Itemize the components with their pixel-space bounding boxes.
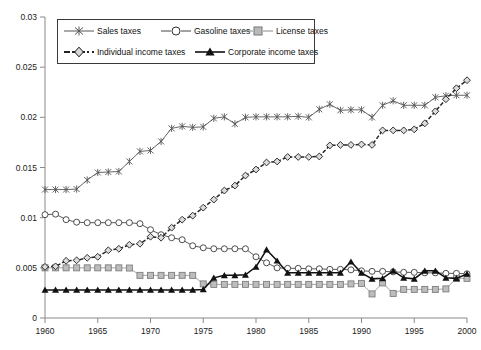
data-point xyxy=(232,120,238,127)
data-point xyxy=(337,281,343,287)
data-point xyxy=(200,245,206,251)
data-point xyxy=(148,227,154,233)
data-point xyxy=(327,281,333,287)
x-axis-label: 1965 xyxy=(78,326,118,336)
data-point xyxy=(432,286,438,292)
legend-item-corporate-income-taxes[interactable]: Corporate income taxes xyxy=(195,43,318,61)
data-point xyxy=(400,127,407,134)
data-point xyxy=(126,220,132,226)
data-point xyxy=(211,281,217,287)
data-point xyxy=(253,254,259,260)
data-point xyxy=(73,257,80,264)
data-point xyxy=(253,263,260,269)
data-point xyxy=(126,241,133,248)
legend-row-2: Individual income taxes Corporate income… xyxy=(58,43,314,61)
data-point xyxy=(305,154,312,161)
data-point xyxy=(390,97,396,104)
x-axis-label: 1985 xyxy=(289,326,329,336)
data-point xyxy=(443,96,450,103)
data-point xyxy=(284,154,291,161)
data-point xyxy=(105,265,111,271)
legend-item-individual-income-taxes[interactable]: Individual income taxes xyxy=(64,43,185,61)
legend-item-sales-taxes[interactable]: Sales taxes xyxy=(64,22,141,40)
data-point xyxy=(358,141,365,148)
data-point xyxy=(285,281,291,287)
data-point xyxy=(242,281,248,287)
x-axis-label: 1970 xyxy=(131,326,171,336)
data-point xyxy=(274,281,280,287)
data-point xyxy=(390,127,397,134)
y-axis-label: 0.02 xyxy=(0,112,37,122)
data-point xyxy=(179,272,185,278)
x-axis-label: 2000 xyxy=(447,326,481,336)
data-point xyxy=(274,158,281,165)
data-point xyxy=(42,212,48,218)
data-point xyxy=(327,101,333,108)
legend-item-gasoline-taxes[interactable]: Gasoline taxes xyxy=(161,22,250,40)
license-taxes-legend-icon xyxy=(243,24,273,38)
data-point xyxy=(169,272,175,278)
x-axis-label: 1960 xyxy=(25,326,65,336)
x-axis-label: 1995 xyxy=(394,326,434,336)
data-point xyxy=(253,281,259,287)
data-point xyxy=(306,281,312,287)
data-point xyxy=(63,265,69,271)
legend-label-sales-taxes: Sales taxes xyxy=(94,26,141,36)
data-point xyxy=(380,102,386,109)
legend-label-gasoline-taxes: Gasoline taxes xyxy=(191,26,250,36)
data-point xyxy=(274,265,280,271)
chart-legend: Sales taxes Gasoline taxes License taxes xyxy=(57,19,315,64)
data-point xyxy=(190,272,196,278)
data-point xyxy=(295,154,302,161)
individual-income-taxes-legend-icon xyxy=(64,45,94,59)
data-point xyxy=(264,260,270,266)
data-point xyxy=(347,258,354,264)
series-individual-income-taxes xyxy=(42,77,471,270)
legend-label-license-taxes: License taxes xyxy=(273,26,328,36)
legend-item-license-taxes[interactable]: License taxes xyxy=(243,22,328,40)
data-point xyxy=(221,281,227,287)
data-point xyxy=(126,265,132,271)
data-point xyxy=(443,286,449,292)
data-point xyxy=(348,267,354,273)
gasoline-taxes-legend-icon xyxy=(161,24,191,38)
data-point xyxy=(422,286,428,292)
data-point xyxy=(116,220,122,226)
data-point xyxy=(137,272,143,278)
data-point xyxy=(337,142,344,149)
data-point xyxy=(211,246,217,252)
data-point xyxy=(210,196,217,203)
data-point xyxy=(95,220,101,226)
y-axis-label: 0.005 xyxy=(0,263,37,273)
x-axis-label: 1980 xyxy=(236,326,276,336)
data-point xyxy=(148,272,154,278)
data-point xyxy=(369,114,375,121)
data-point xyxy=(158,272,164,278)
data-point xyxy=(242,246,248,252)
data-point xyxy=(411,126,418,133)
data-point xyxy=(411,286,417,292)
data-point xyxy=(105,220,111,226)
data-point xyxy=(348,281,354,287)
data-point xyxy=(316,153,323,160)
data-point xyxy=(179,237,185,243)
series-sales-taxes xyxy=(42,92,470,194)
y-axis-label: 0.025 xyxy=(0,62,37,72)
data-point xyxy=(190,243,196,249)
y-axis-label: 0.015 xyxy=(0,163,37,173)
data-point xyxy=(74,219,80,225)
data-point xyxy=(264,281,270,287)
data-point xyxy=(369,291,375,297)
data-point xyxy=(158,138,164,145)
data-point xyxy=(232,246,238,252)
x-axis-label: 1990 xyxy=(342,326,382,336)
data-point xyxy=(316,106,322,113)
data-point xyxy=(94,253,101,260)
data-point xyxy=(401,269,407,275)
data-point xyxy=(359,280,365,286)
y-axis-label: 0.01 xyxy=(0,213,37,223)
data-point xyxy=(63,257,70,264)
data-point xyxy=(84,176,90,183)
data-point xyxy=(401,286,407,292)
